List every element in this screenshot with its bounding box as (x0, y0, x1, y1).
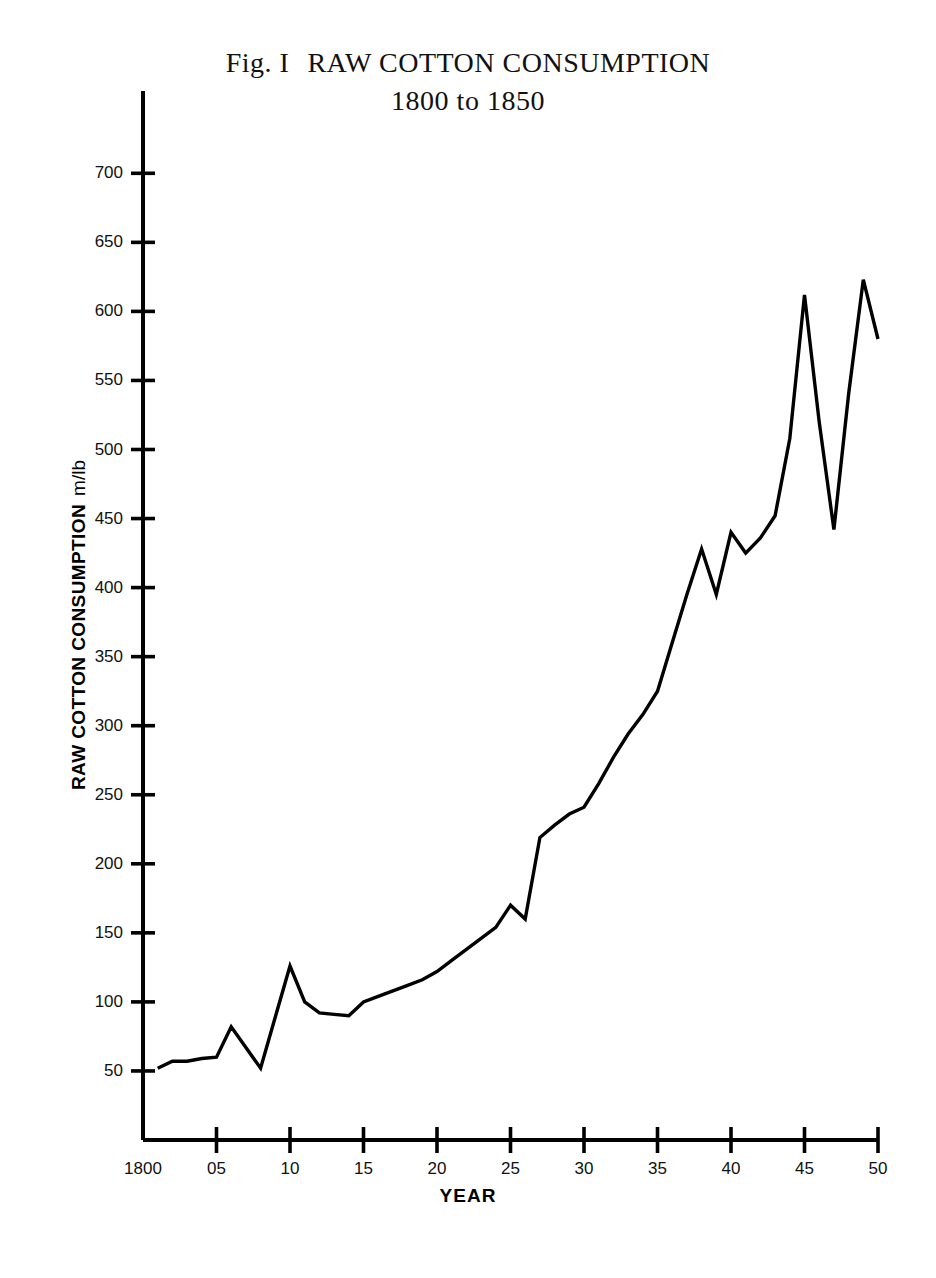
axes (143, 91, 878, 1140)
figure-raw-cotton-consumption: Fig. IRAW COTTON CONSUMPTION 1800 to 185… (0, 0, 936, 1278)
data-series-line (158, 280, 878, 1069)
plot-area (0, 0, 936, 1278)
